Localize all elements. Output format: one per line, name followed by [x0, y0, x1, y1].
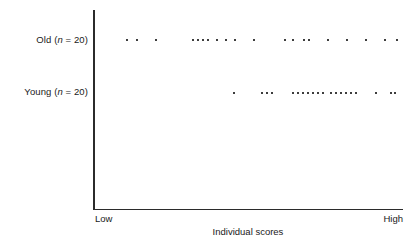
data-point: [266, 92, 268, 94]
x-axis-title-text: Individual scores: [213, 226, 284, 237]
data-point: [271, 92, 273, 94]
data-point: [136, 39, 138, 41]
data-point: [335, 92, 337, 94]
data-point: [346, 39, 348, 41]
data-point: [317, 92, 319, 94]
data-point: [302, 92, 304, 94]
row-label-old-suffix: = 20): [63, 34, 88, 45]
data-point: [207, 39, 209, 41]
data-point: [292, 39, 294, 41]
row-label-young-prefix: Young (: [24, 86, 57, 97]
data-point: [307, 92, 309, 94]
data-point: [225, 39, 227, 41]
data-point: [365, 39, 367, 41]
data-point: [394, 92, 396, 94]
row-label-young: Young (n = 20): [24, 86, 88, 97]
x-axis-line: [93, 209, 403, 211]
data-point: [396, 39, 398, 41]
row-label-old: Old (n = 20): [36, 34, 88, 45]
data-point: [202, 39, 204, 41]
data-point: [216, 39, 218, 41]
data-point: [340, 92, 342, 94]
data-point: [330, 92, 332, 94]
data-point: [308, 39, 310, 41]
data-point: [345, 92, 347, 94]
data-point: [261, 92, 263, 94]
data-point: [292, 92, 294, 94]
data-point: [197, 39, 199, 41]
data-point: [192, 39, 194, 41]
row-label-old-prefix: Old (: [36, 34, 57, 45]
data-point: [322, 92, 324, 94]
data-point: [375, 92, 377, 94]
data-point: [384, 39, 386, 41]
data-point: [303, 39, 305, 41]
data-point: [350, 92, 352, 94]
data-point: [155, 39, 157, 41]
x-axis-high-label: High: [383, 213, 403, 224]
data-point: [327, 39, 329, 41]
data-point: [233, 92, 235, 94]
data-point: [297, 92, 299, 94]
data-point: [355, 92, 357, 94]
x-axis-title: Individual scores: [0, 226, 414, 237]
x-axis-low-label: Low: [95, 213, 112, 224]
data-point: [234, 39, 236, 41]
data-point: [390, 92, 392, 94]
row-label-young-suffix: = 20): [63, 86, 88, 97]
data-point: [312, 92, 314, 94]
dot-plot-figure: Old (n = 20) Young (n = 20) Low High Ind…: [0, 0, 414, 243]
y-axis-line: [93, 10, 95, 210]
data-point: [284, 39, 286, 41]
data-point: [253, 39, 255, 41]
data-point: [126, 39, 128, 41]
